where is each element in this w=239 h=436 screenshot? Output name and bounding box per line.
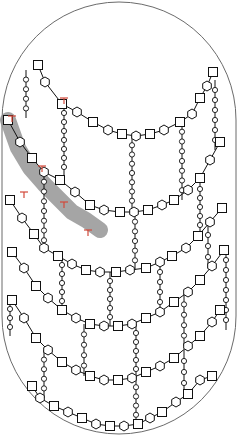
peptide-residue-icon — [223, 257, 228, 262]
peptide-residue-icon — [181, 369, 186, 374]
peptide-residue-icon — [205, 232, 210, 237]
crosslink — [81, 324, 86, 376]
peptide-residue-icon — [133, 403, 138, 408]
peptide-residue-icon — [181, 302, 186, 307]
sugar-square-icon — [34, 61, 43, 70]
sugar-hexagon-icon — [156, 307, 165, 317]
crosslink — [133, 324, 138, 378]
glycan-strand — [8, 296, 225, 386]
sugar-hexagon-icon — [18, 213, 27, 223]
peptide-residue-icon — [59, 262, 64, 267]
sugar-square-icon — [112, 268, 121, 277]
sugar-hexagon-icon — [146, 413, 155, 423]
crosslink — [223, 250, 228, 330]
peptide-residue-icon — [212, 97, 217, 102]
crosslink — [129, 136, 134, 210]
glycan-strand — [8, 246, 229, 332]
peptide-residue-icon — [107, 287, 112, 292]
peptide-residue-icon — [59, 280, 64, 285]
sugar-square-icon — [184, 390, 193, 399]
peptide-residue-icon — [179, 158, 184, 163]
peptide-residue-icon — [41, 376, 46, 381]
sugar-square-icon — [209, 68, 218, 77]
sugar-square-icon — [142, 264, 151, 273]
crosslink — [41, 350, 46, 398]
sugar-hexagon-icon — [20, 313, 29, 323]
sugar-square-icon — [146, 130, 155, 139]
peptide-residue-icon — [59, 271, 64, 276]
sugar-square-icon — [32, 334, 41, 343]
peptide-residue-icon — [7, 306, 12, 311]
peptide-residue-icon — [179, 178, 184, 183]
sugar-square-icon — [58, 306, 67, 315]
peptide-residue-icon — [133, 330, 138, 335]
peptide-residue-icon — [7, 324, 12, 329]
peptide-residue-icon — [23, 87, 28, 92]
peptide-residue-icon — [81, 332, 86, 337]
peptide-residue-icon — [212, 127, 217, 132]
sugar-hexagon-icon — [40, 243, 49, 253]
sugar-square-icon — [8, 296, 17, 305]
peptide-residue-icon — [223, 317, 228, 322]
peptide-residue-icon — [59, 289, 64, 294]
peptide-residue-icon — [129, 161, 134, 166]
peptide-residue-icon — [132, 219, 137, 224]
peptide-residue-icon — [133, 385, 138, 390]
sugar-square-icon — [58, 358, 67, 367]
sugar-square-icon — [78, 414, 87, 423]
peptide-residue-icon — [41, 199, 46, 204]
sugar-square-icon — [220, 246, 229, 255]
sugar-hexagon-icon — [172, 397, 181, 407]
sugar-hexagon-icon — [196, 375, 205, 385]
sugar-hexagon-icon — [184, 185, 193, 195]
crosslink — [59, 256, 64, 310]
peptide-residue-icon — [181, 380, 186, 385]
peptide-residue-icon — [132, 248, 137, 253]
crosslink — [7, 300, 12, 336]
peptide-residue-icon — [157, 269, 162, 274]
peptide-residue-icon — [41, 228, 46, 233]
sugar-hexagon-icon — [126, 265, 135, 275]
peptide-residue-icon — [129, 189, 134, 194]
sugar-square-icon — [86, 201, 95, 210]
sugar-hexagon-icon — [16, 137, 25, 147]
sugar-square-icon — [54, 252, 63, 261]
crosslink — [41, 172, 46, 250]
peptide-residue-icon — [61, 137, 66, 142]
crosslink — [157, 262, 162, 312]
sugar-square-icon — [142, 314, 151, 323]
sugar-hexagon-icon — [156, 257, 165, 267]
sugar-square-icon — [28, 382, 37, 391]
sugar-hexagon-icon — [44, 293, 53, 303]
sugar-hexagon-icon — [20, 263, 29, 273]
peptide-residue-icon — [129, 198, 134, 203]
peptide-residue-icon — [81, 363, 86, 368]
sugar-hexagon-icon — [208, 261, 217, 271]
peptide-residue-icon — [133, 394, 138, 399]
sugar-hexagon-icon — [68, 259, 77, 269]
sugar-square-icon — [170, 196, 179, 205]
peptide-residue-icon — [61, 146, 66, 151]
peptide-residue-icon — [133, 339, 138, 344]
peptide-residue-icon — [223, 277, 228, 282]
sugar-hexagon-icon — [41, 77, 50, 87]
peptide-residue-icon — [129, 143, 134, 148]
sugar-square-icon — [170, 354, 179, 363]
peptide-residue-icon — [181, 333, 186, 338]
peptide-residue-icon — [197, 195, 202, 200]
peptide-residue-icon — [41, 367, 46, 372]
sugar-square-icon — [196, 174, 205, 183]
sugar-square-icon — [118, 130, 127, 139]
sugar-square-icon — [142, 368, 151, 377]
peptide-residue-icon — [23, 96, 28, 101]
peptide-residue-icon — [41, 208, 46, 213]
sugar-hexagon-icon — [72, 313, 81, 323]
peptide-residue-icon — [212, 117, 217, 122]
peptide-residue-icon — [197, 204, 202, 209]
sugar-square-icon — [56, 176, 65, 185]
sugar-hexagon-icon — [64, 407, 73, 417]
peptide-residue-icon — [129, 152, 134, 157]
peptide-residue-icon — [132, 238, 137, 243]
sugar-hexagon-icon — [206, 155, 215, 165]
peptide-residue-icon — [157, 289, 162, 294]
